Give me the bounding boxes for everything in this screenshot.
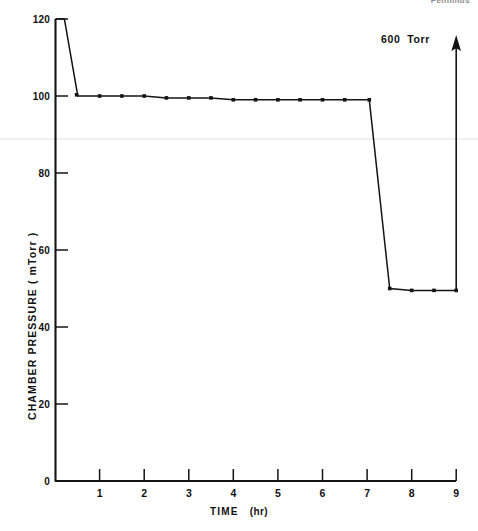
y-axis-title: CHAMBER PRESSURE ( mTorr ) — [26, 232, 38, 420]
x-axis-title-unit: (hr) — [250, 506, 268, 517]
x-tick-4: 4 — [222, 487, 244, 499]
y-axis-title-wrapper: CHAMBER PRESSURE ( mTorr ) — [0, 0, 36, 480]
pressure-series-markers — [75, 93, 458, 292]
x-tick-5: 5 — [267, 487, 289, 499]
vent-pressure-value: 600 — [381, 33, 400, 45]
axis-lines — [55, 19, 456, 482]
plot-canvas — [0, 0, 478, 531]
x-axis-title-main: TIME — [210, 506, 239, 517]
x-axis-tick-labels: 1 2 3 4 5 6 7 8 9 — [0, 487, 478, 507]
x-tick-8: 8 — [401, 487, 423, 499]
x-tick-6: 6 — [312, 487, 334, 499]
x-tick-1: 1 — [89, 487, 111, 499]
x-axis-title: TIME (hr) — [0, 506, 478, 517]
vent-up-arrow-icon — [451, 35, 461, 290]
vent-pressure-annotation: 600Torr — [381, 33, 430, 45]
x-tick-9: 9 — [445, 487, 467, 499]
y-tick-marks — [56, 19, 69, 404]
pressure-series-line — [56, 19, 457, 290]
pressure-vs-time-figure: Pennings — [0, 0, 478, 531]
x-tick-marks — [100, 469, 457, 481]
x-tick-3: 3 — [178, 487, 200, 499]
vent-pressure-unit: Torr — [407, 33, 430, 45]
x-tick-2: 2 — [133, 487, 155, 499]
x-tick-7: 7 — [356, 487, 378, 499]
